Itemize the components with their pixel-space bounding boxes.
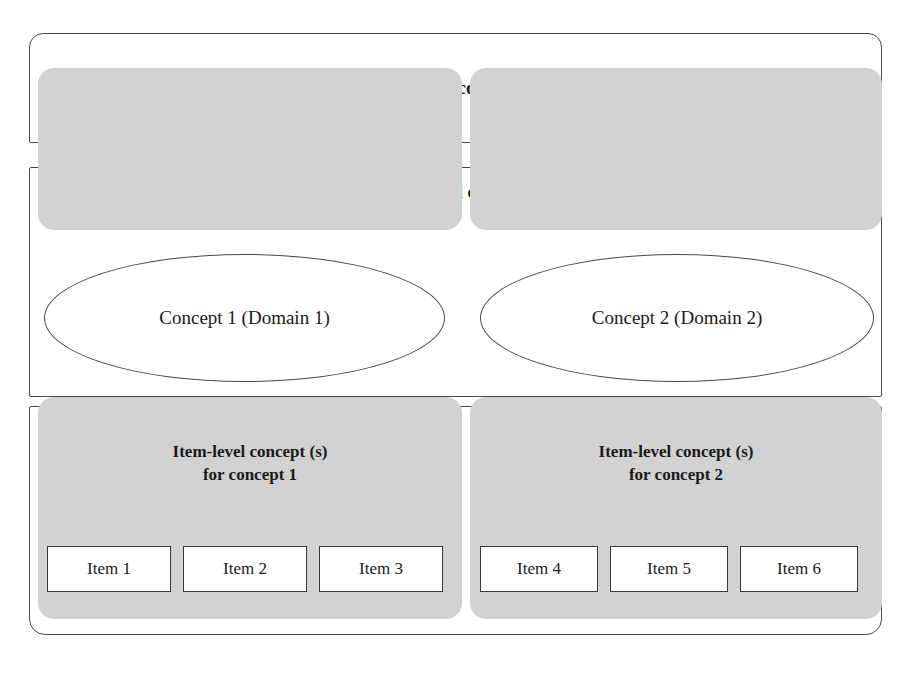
domain-panel-1 (38, 68, 462, 230)
item-cell: Item 2 (183, 546, 307, 592)
item-cell: Item 3 (319, 546, 443, 592)
item-cell: Item 5 (610, 546, 728, 592)
item-cell: Item 4 (480, 546, 598, 592)
diagram-canvas: Overall concept Domain-level concept (s)… (0, 0, 913, 676)
item-row-group-1: Item 1 Item 2 Item 3 (47, 546, 443, 592)
item-group-1-title: Item-level concept (s) for concept 1 (38, 441, 462, 487)
item-group-2-title: Item-level concept (s) for concept 2 (470, 441, 882, 487)
concept-2-ellipse: Concept 2 (Domain 2) (480, 254, 874, 382)
domain-panel-2 (470, 68, 882, 230)
item-cell: Item 1 (47, 546, 171, 592)
item-cell: Item 6 (740, 546, 858, 592)
item-row-group-2: Item 4 Item 5 Item 6 (480, 546, 858, 592)
concept-1-ellipse: Concept 1 (Domain 1) (44, 254, 445, 382)
